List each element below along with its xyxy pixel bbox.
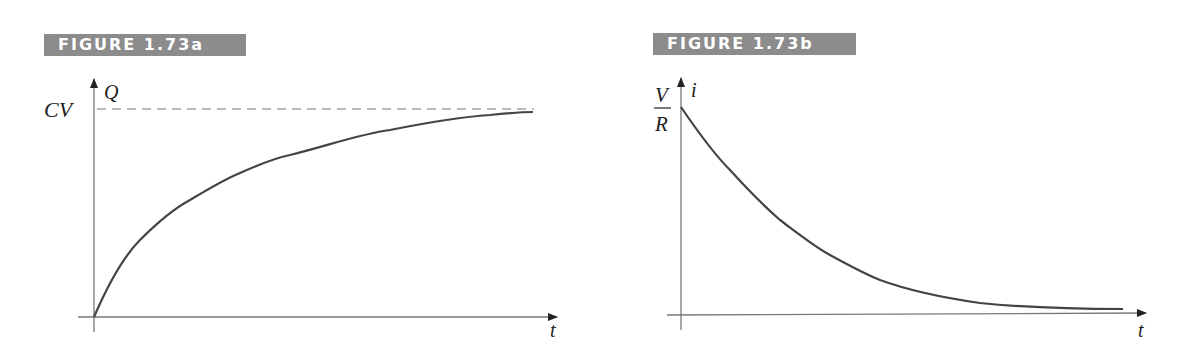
charge-curve	[94, 112, 533, 317]
y-axis-label-i: i	[691, 79, 697, 101]
current-decay-curve	[681, 107, 1123, 309]
asymptote-label-cv: CV	[44, 97, 75, 122]
initial-value-numerator-v: V	[655, 83, 670, 107]
figure-a-plot: Q CV t	[44, 79, 557, 341]
figures-canvas: Q CV t i V R t	[0, 0, 1180, 358]
x-axis-label-t-b: t	[1138, 319, 1144, 341]
x-axis-label-t-a: t	[550, 319, 556, 341]
x-axis-b	[667, 313, 1146, 315]
initial-value-denominator-r: R	[654, 112, 668, 136]
y-axis-label-q: Q	[104, 81, 119, 103]
figure-b-plot: i V R t	[654, 78, 1146, 341]
